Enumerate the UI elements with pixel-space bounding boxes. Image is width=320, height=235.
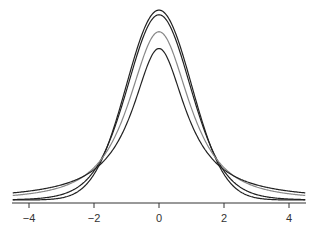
x-tick-label: 4 — [286, 212, 292, 224]
density-curves — [13, 10, 306, 200]
x-tick-label: 2 — [221, 212, 227, 224]
density-curve-t-df10 — [13, 15, 306, 200]
density-chart: −4−2024 — [0, 0, 320, 235]
density-curve-t-df1 — [13, 48, 306, 192]
density-curve-normal — [13, 10, 306, 200]
density-curve-t-df2 — [13, 32, 306, 196]
x-axis-ticks: −4−2024 — [23, 203, 292, 224]
x-tick-label: −4 — [23, 212, 36, 224]
x-tick-label: −2 — [88, 212, 101, 224]
x-tick-label: 0 — [156, 212, 162, 224]
